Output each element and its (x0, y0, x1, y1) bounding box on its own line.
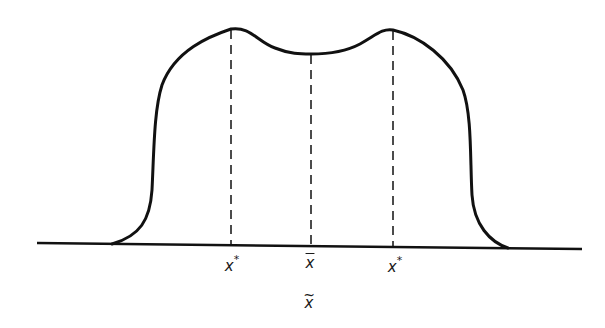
left-peak-label: x* (225, 256, 239, 274)
mean-label: x (306, 256, 315, 271)
distribution-diagram (0, 0, 605, 328)
axis-caption: ~ x (303, 288, 315, 311)
distribution-curve (112, 29, 508, 248)
right-peak-label: x* (388, 257, 402, 275)
